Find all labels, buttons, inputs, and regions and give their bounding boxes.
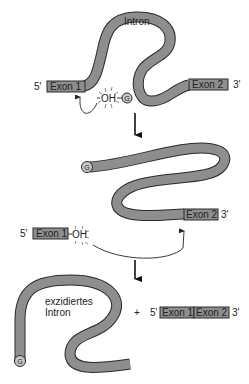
step1-five-prime-label: 5' xyxy=(34,81,42,92)
step3-exon1-label: Exon 1 xyxy=(162,307,194,318)
step1-exon2-label: Exon 2 xyxy=(192,79,224,90)
intron-label: Intron xyxy=(124,16,150,27)
step2-exon2-label: Exon 2 xyxy=(186,209,218,220)
step2-intron-tube xyxy=(90,148,225,216)
step3-g-label: G xyxy=(17,358,22,365)
step1-attack-arrow-icon xyxy=(80,97,97,113)
step3-five-prime-label: 5' xyxy=(150,307,158,318)
step3-exon2-label: Exon 2 xyxy=(196,307,228,318)
step1-exon1-label: Exon 1 xyxy=(50,81,82,92)
step2-lariat-intermediate: G Exon 2 3' 5' Exon 1 OH xyxy=(20,148,229,258)
step2-attack-arrow-icon xyxy=(93,231,184,258)
plus-sign: + xyxy=(134,307,140,318)
step2-five-prime-label: 5' xyxy=(20,228,28,239)
step1-intron-tube xyxy=(84,17,189,101)
step2-three-prime-label: 3' xyxy=(221,209,229,220)
step2-oh-label: OH xyxy=(72,229,87,240)
step1-g-label: G xyxy=(124,95,129,102)
step3-excised-intron-tube xyxy=(20,280,130,367)
step2-exon1-label: Exon 1 xyxy=(36,228,68,239)
step2-g-label: G xyxy=(84,164,89,171)
excised-intron-label-line2: Intron xyxy=(45,307,71,318)
step3-products: G exzidiertes Intron + 5' Exon 1 Exon 2 … xyxy=(15,280,240,367)
step1-three-prime-label: 3' xyxy=(233,79,241,90)
excised-intron-label-line1: exzidiertes xyxy=(45,296,93,307)
splicing-diagram: Intron 5' Exon 1 Exon 2 3' OH G xyxy=(0,0,249,384)
step1-oh-label: OH xyxy=(101,93,116,104)
step1-precursor: Intron 5' Exon 1 Exon 2 3' OH G xyxy=(34,16,241,113)
step3-three-prime-label: 3' xyxy=(232,307,240,318)
